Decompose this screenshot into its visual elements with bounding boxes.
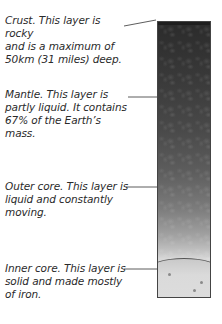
earth-cross-section [157,21,211,298]
outer-core-label-line-3: moving. [5,206,130,219]
iron-speck [168,273,171,276]
inner-core-layer [157,258,211,298]
crust-label-line-2: and is a maximum of [5,40,130,53]
mantle-label-line-3: 67% of the Earth’s [5,114,130,127]
inner-core-label-line-1: Inner core. This layer is [5,262,130,275]
crust-layer [158,22,210,25]
outer-core-label-line-2: liquid and constantly [5,193,130,206]
crust-label-line-3: 50km (31 miles) deep. [5,53,130,66]
mantle-label-line-2: partly liquid. It contains [5,101,130,114]
inner-core-label-line-3: of iron. [5,288,130,301]
inner-core-label: Inner core. This layer is solid and made… [5,262,130,301]
crust-label-line-1: Crust. This layer is rocky [5,14,130,40]
mantle-label-line-1: Mantle. This layer is [5,88,130,101]
crust-label: Crust. This layer is rocky and is a maxi… [5,14,130,66]
outer-core-label-line-1: Outer core. This layer is [5,180,130,193]
mantle-label: Mantle. This layer is partly liquid. It … [5,88,130,140]
outer-core-label: Outer core. This layer is liquid and con… [5,180,130,219]
iron-speck [193,289,196,292]
mantle-label-line-4: mass. [5,127,130,140]
inner-core-label-line-2: solid and made mostly [5,275,130,288]
mantle-convection-texture [158,22,210,297]
iron-speck [200,281,203,284]
